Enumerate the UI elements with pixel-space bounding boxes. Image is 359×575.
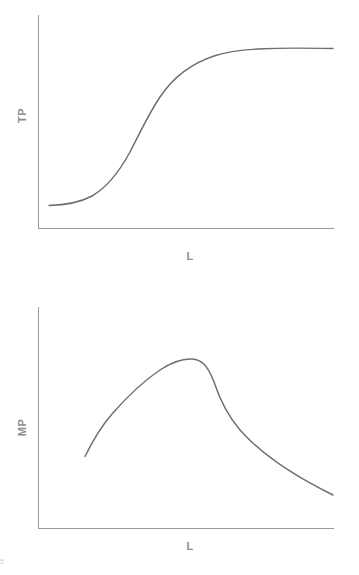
- tp-y-axis-label: TP: [17, 104, 28, 128]
- page-edge-fragment: 5: [0, 558, 6, 568]
- chart-marginal-product: MP L: [0, 290, 359, 575]
- mp-y-axis-label: MP: [17, 416, 28, 440]
- mp-plot-area: [0, 290, 359, 575]
- chart-total-product: TP L: [0, 0, 359, 290]
- tp-curve: [49, 48, 333, 205]
- tp-axes: [39, 15, 335, 229]
- mp-x-axis-label: L: [178, 541, 202, 552]
- mp-axes: [39, 307, 335, 529]
- mp-curve: [85, 359, 333, 495]
- tp-plot-area: [0, 0, 359, 290]
- tp-x-axis-label: L: [178, 251, 202, 262]
